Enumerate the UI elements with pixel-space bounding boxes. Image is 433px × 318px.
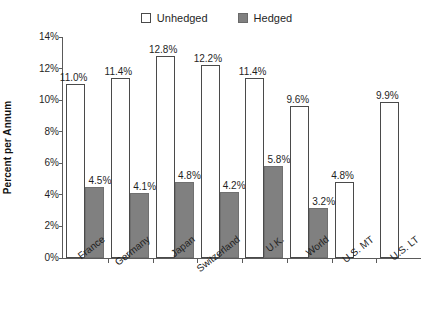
bar-group: 12.8%4.8%	[153, 37, 198, 258]
plot-area: 0%2%4%6%8%10%12%14% 11.0%4.5%11.4%4.1%12…	[62, 37, 421, 259]
bar-slot: 12.8%	[156, 37, 175, 258]
legend-label-hedged: Hedged	[254, 12, 293, 24]
bar-slot: 5.8%	[264, 37, 283, 258]
bar-slot: 4.8%	[335, 37, 354, 258]
bar-slot: 4.2%	[220, 37, 239, 258]
x-axis-label-cell: U.S. LT	[375, 259, 420, 318]
bar-slot: 11.4%	[245, 37, 264, 258]
bar-unhedged[interactable]: 12.2%	[201, 65, 220, 258]
bar-unhedged[interactable]: 11.4%	[245, 78, 264, 258]
x-axis-labels: FranceGermanyJapanSwitzerlandU.K.WorldU.…	[62, 259, 420, 318]
bar-unhedged[interactable]: 11.0%	[66, 84, 85, 258]
legend-entry-hedged: Hedged	[238, 12, 293, 24]
legend-label-unhedged: Unhedged	[157, 12, 208, 24]
x-axis-label-cell: World	[286, 259, 331, 318]
hedged-swatch-icon	[238, 13, 248, 23]
bar-value-label: 11.4%	[239, 66, 267, 77]
bar-group: 9.6%3.2%	[287, 37, 332, 258]
bar-slot: 4.5%	[85, 37, 104, 258]
bar-value-label: 9.9%	[376, 90, 399, 101]
bar-unhedged[interactable]: 12.8%	[156, 56, 175, 258]
bar-value-label: 11.0%	[60, 72, 88, 83]
y-axis-title: Percent per Annum	[0, 37, 16, 258]
bar-chart: Unhedged Hedged Percent per Annum 0%2%4%…	[0, 0, 433, 318]
bar-groups: 11.0%4.5%11.4%4.1%12.8%4.8%12.2%4.2%11.4…	[63, 37, 421, 258]
bar-slot: 12.2%	[201, 37, 220, 258]
bar-slot: 4.1%	[130, 37, 149, 258]
bar-group: 11.0%4.5%	[63, 37, 108, 258]
unhedged-swatch-icon	[141, 13, 151, 23]
bar-slot: 11.4%	[111, 37, 130, 258]
x-axis-label-cell: U.S. MT	[331, 259, 376, 318]
bar-value-label: 12.8%	[149, 44, 177, 55]
bar-slot: 4.8%	[175, 37, 194, 258]
bar-group: 11.4%5.8%	[242, 37, 287, 258]
bar-slot	[399, 37, 418, 258]
chart-legend: Unhedged Hedged	[0, 10, 433, 26]
bar-slot: 9.9%	[380, 37, 399, 258]
bar-slot: 3.2%	[309, 37, 328, 258]
bar-group: 12.2%4.2%	[197, 37, 242, 258]
bar-value-label: 11.4%	[105, 66, 133, 77]
legend-entry-unhedged: Unhedged	[141, 12, 208, 24]
bar-group: 9.9%	[376, 37, 421, 258]
bar-group: 11.4%4.1%	[108, 37, 153, 258]
x-axis-label-cell: Japan	[152, 259, 197, 318]
bar-unhedged[interactable]: 9.9%	[380, 102, 399, 258]
bar-value-label: 4.8%	[331, 170, 354, 181]
bar-value-label: 9.6%	[286, 94, 309, 105]
bar-slot: 11.0%	[66, 37, 85, 258]
bar-group: 4.8%	[332, 37, 377, 258]
x-axis-label-cell: Germany	[107, 259, 152, 318]
bar-unhedged[interactable]: 9.6%	[290, 106, 309, 258]
bar-value-label: 12.2%	[194, 53, 222, 64]
bar-slot	[354, 37, 373, 258]
bar-slot: 9.6%	[290, 37, 309, 258]
bar-unhedged[interactable]: 11.4%	[111, 78, 130, 258]
y-axis-title-text: Percent per Annum	[3, 101, 14, 195]
